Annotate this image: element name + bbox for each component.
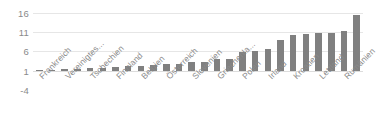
bar bbox=[341, 31, 348, 71]
y-tick-label: 11 bbox=[19, 27, 29, 38]
bar bbox=[290, 35, 297, 71]
bar bbox=[265, 49, 272, 71]
x-axis-labels: FrankreichVereinigtes...TschechienFinnla… bbox=[0, 71, 367, 140]
y-tick-label: 16 bbox=[18, 8, 29, 19]
y-tick-label: 6 bbox=[24, 46, 29, 57]
y-axis: -4161116 bbox=[0, 0, 33, 75]
bar bbox=[315, 33, 322, 71]
